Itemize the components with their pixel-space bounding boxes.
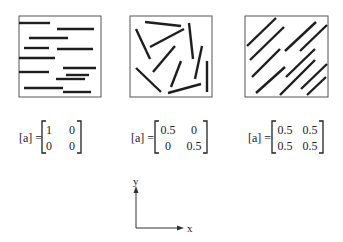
matrix-cell: 0 xyxy=(69,139,75,153)
panel-aligned-diagonal xyxy=(245,16,328,97)
panel-box xyxy=(245,16,328,97)
tensor-label: [a] = xyxy=(131,131,154,145)
orientation-tensor-1: [a] = 1 0 0 0 xyxy=(19,121,81,153)
panel-random xyxy=(130,16,212,97)
matrix-cell: 0.5 xyxy=(303,123,318,137)
fiber-line xyxy=(300,25,327,51)
matrix-cell: 0.5 xyxy=(161,123,176,137)
x-axis-label: x xyxy=(187,222,193,234)
y-axis-label: y xyxy=(133,175,139,187)
left-bracket xyxy=(155,121,159,153)
matrix-cell: 0 xyxy=(69,123,75,137)
fiber-line xyxy=(136,68,161,92)
left-bracket xyxy=(272,121,276,153)
fiber-line xyxy=(247,18,276,46)
matrix-cell: 0 xyxy=(165,139,171,153)
right-bracket xyxy=(203,121,207,153)
tensor-label: [a] = xyxy=(248,131,271,145)
y-arrow-icon xyxy=(134,186,139,193)
fiber-line xyxy=(168,84,201,93)
fiber-line xyxy=(189,23,193,59)
right-bracket xyxy=(77,121,81,153)
matrix-cell: 0.5 xyxy=(187,139,202,153)
fiber-line xyxy=(145,22,181,26)
right-bracket xyxy=(319,121,323,153)
fiber-line xyxy=(195,46,202,79)
fiber-line xyxy=(250,27,284,60)
fibers xyxy=(19,23,96,92)
fiber-line xyxy=(150,29,184,47)
matrix-cell: 0 xyxy=(46,139,52,153)
fiber-line xyxy=(285,22,316,51)
matrix-cell: 0.5 xyxy=(278,139,293,153)
fiber-orientation-diagram: [a] = 1 0 0 0 [a] = 0.5 0 0 0.5 [a] = 0.… xyxy=(0,0,343,242)
matrix-cell: 0 xyxy=(191,123,197,137)
fiber-line xyxy=(171,61,181,87)
tensor-label: [a] = xyxy=(19,131,42,145)
orientation-tensor-2: [a] = 0.5 0 0 0.5 xyxy=(131,121,207,153)
fibers xyxy=(247,18,327,95)
orientation-tensor-3: [a] = 0.5 0.5 0.5 0.5 xyxy=(248,121,323,153)
coordinate-axes: y x xyxy=(133,175,193,234)
matrix-cell: 0.5 xyxy=(278,123,293,137)
matrix-cell: 0.5 xyxy=(303,139,318,153)
fiber-line xyxy=(256,67,285,93)
fiber-line xyxy=(136,29,150,59)
panel-aligned-x xyxy=(19,16,101,97)
fiber-line xyxy=(301,64,327,89)
x-arrow-icon xyxy=(177,226,184,231)
fibers xyxy=(136,22,207,93)
fiber-line xyxy=(153,46,175,72)
matrix-cell: 1 xyxy=(46,123,52,137)
